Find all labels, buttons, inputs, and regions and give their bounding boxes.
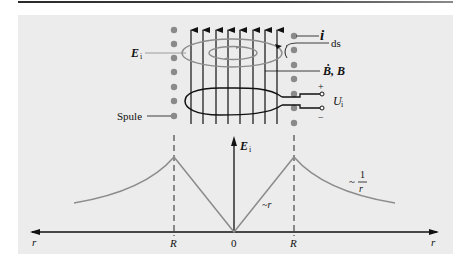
ds-arc [285,46,287,58]
tick-label-left-r: R [169,237,177,249]
coil-label: Spule [117,110,142,122]
voltage-sub: i [341,100,344,109]
tick-label-zero: 0 [231,237,237,249]
tick-label-right-r: R [289,237,297,249]
plus-sign: + [318,81,324,92]
coil-right-dots [291,33,297,126]
y-axis-arrow-icon [231,136,237,146]
induced-field-outer-loop [182,39,282,67]
x-axis-arrow-left-icon [30,229,40,235]
lead-plus [282,94,320,97]
x-label-right: r [431,236,436,248]
terminal-minus [320,106,324,110]
field-graph: E i ~r ~ 1 r r r R 0 R [30,135,439,249]
induced-field-label: E [130,46,139,60]
ds-label: ds [331,37,341,49]
induced-field-sub: i [140,52,143,61]
outer-annotation-num: 1 [360,169,365,180]
magnetic-field-lines [191,30,277,124]
y-axis-label-sub: i [249,145,252,154]
terminal-plus [320,92,324,96]
induction-figure: i ds Ḃ, B E i U i + − Spule E i ~r ~ 1 r… [0,0,467,263]
outer-annotation-prefix: ~ [349,175,355,187]
inner-loop-arrow-icon-2 [223,57,228,60]
minus-sign: − [318,112,324,123]
coil-diagram: i ds Ḃ, B E i U i + − Spule [117,27,345,126]
inner-annotation: ~r [262,199,271,210]
current-label: i [320,27,325,43]
y-axis-label: E [239,139,248,153]
lead-minus [282,105,320,108]
outer-annotation-den: r [359,183,363,194]
coil-left-dots [171,27,177,119]
conductor-loop [185,88,282,115]
field-rate-label: Ḃ, B [322,64,345,78]
x-label-left: r [32,236,37,248]
x-axis-arrow-right-icon [429,229,439,235]
